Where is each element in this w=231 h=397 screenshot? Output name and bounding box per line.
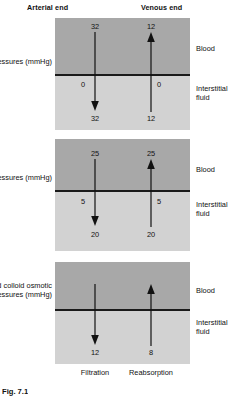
arterial-net-value: 12 <box>91 348 99 357</box>
panel3-interstitial-label: Interstitial fluid <box>196 318 231 337</box>
panel-net-pressures: 12 8 <box>55 262 190 364</box>
venous-blood-value: 25 <box>147 149 155 158</box>
interstitial-compartment-band <box>55 191 190 251</box>
venous-upward-arrow <box>144 32 158 112</box>
capillary-membrane-line <box>55 190 190 192</box>
panel-hydrostatic-label: Hydrostatic pressures (mmHg) <box>0 57 52 66</box>
capillary-membrane-line <box>55 309 190 311</box>
panel-net-pressures-label: Net hydrostatic and colloid osmotic pres… <box>0 281 52 300</box>
venous-net-value: 8 <box>149 348 153 357</box>
arterial-downward-arrow <box>88 32 102 112</box>
panel-colloid-osmotic-label: Colloid osmotic pressures (mmHg) <box>0 173 52 182</box>
blood-compartment-band <box>55 18 190 75</box>
panel2-blood-label: Blood <box>196 165 231 174</box>
capillary-membrane-line <box>55 74 190 76</box>
interstitial-compartment-band <box>55 310 190 364</box>
blood-compartment-band <box>55 262 190 310</box>
panel1-interstitial-label: Interstitial fluid <box>196 84 231 103</box>
venous-interstitial-value: 0 <box>157 80 161 89</box>
venous-upward-arrow <box>144 284 158 346</box>
arterial-net-value: 20 <box>91 230 99 239</box>
reabsorption-label: Reabsorption <box>129 368 173 377</box>
arterial-downward-arrow <box>88 284 102 346</box>
panel1-blood-label: Blood <box>196 44 231 53</box>
arterial-interstitial-value: 5 <box>81 197 85 206</box>
arterial-net-value: 32 <box>91 114 99 123</box>
venous-end-label: Venous end <box>141 3 182 12</box>
venous-net-value: 20 <box>147 230 155 239</box>
arterial-downward-arrow <box>88 159 102 227</box>
panel3-blood-label: Blood <box>196 286 231 295</box>
arterial-end-label: Arterial end <box>27 3 68 12</box>
arterial-blood-value: 25 <box>91 149 99 158</box>
venous-upward-arrow <box>144 159 158 227</box>
panel-hydrostatic: 32 0 32 12 0 12 <box>55 18 190 130</box>
venous-blood-value: 12 <box>147 22 155 31</box>
figure-caption: Fig. 7.1 <box>2 387 28 397</box>
interstitial-compartment-band <box>55 75 190 130</box>
venous-net-value: 12 <box>147 114 155 123</box>
arterial-blood-value: 32 <box>91 22 99 31</box>
starling-forces-figure: Arterial end Venous end 32 0 32 12 0 12 … <box>0 0 231 397</box>
panel2-interstitial-label: Interstitial fluid <box>196 200 231 219</box>
filtration-label: Filtration <box>81 368 109 377</box>
arterial-interstitial-value: 0 <box>81 80 85 89</box>
venous-interstitial-value: 5 <box>157 197 161 206</box>
panel-colloid-osmotic: 25 5 20 25 5 20 <box>55 139 190 251</box>
blood-compartment-band <box>55 139 190 191</box>
